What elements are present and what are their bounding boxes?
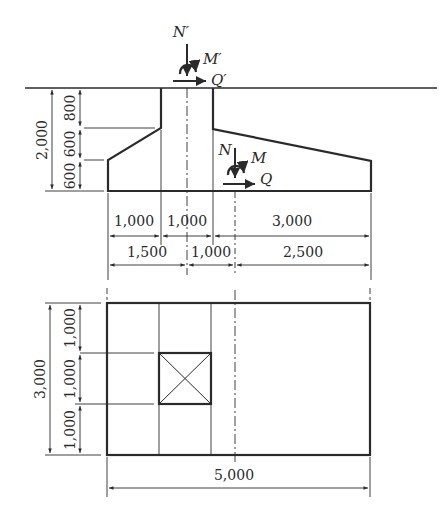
dim-middle-depth: 600 <box>62 131 78 158</box>
dim-plan-width: 5,000 <box>214 467 254 483</box>
label-shear-top: Q′ <box>211 71 227 89</box>
dim-row1-right: 3,000 <box>272 213 312 229</box>
column-top-loads: N′ M′ Q′ <box>172 23 228 89</box>
label-moment-base: M <box>250 149 267 167</box>
label-shear-base: Q <box>260 170 272 188</box>
footing-diagram: 2,000 800 600 600 1,000 1,000 3,000 1,50… <box>0 0 439 526</box>
dim-plan-total: 3,000 <box>32 359 48 399</box>
dim-row2-left: 1,500 <box>127 244 167 260</box>
footing-plan-outline <box>107 303 370 455</box>
dim-plan-top: 1,000 <box>62 308 78 348</box>
dim-row2-center: 1,000 <box>191 244 231 260</box>
dim-top-depth: 800 <box>62 95 78 122</box>
elevation-view: 2,000 800 600 600 1,000 1,000 3,000 1,50… <box>25 23 437 280</box>
label-axial-top: N′ <box>172 23 190 41</box>
label-axial-base: N <box>217 141 232 159</box>
dim-plan-bottom: 1,000 <box>62 410 78 450</box>
plan-view: 3,000 1,000 1,000 1,000 5,000 <box>32 288 370 497</box>
dim-row1-center: 1,000 <box>167 213 207 229</box>
footing-base-loads: N M Q <box>217 141 272 188</box>
dim-row1-left: 1,000 <box>114 213 154 229</box>
dim-total-depth: 2,000 <box>34 120 50 160</box>
dim-plan-middle: 1,000 <box>62 359 78 399</box>
dim-row2-right: 2,500 <box>283 244 323 260</box>
dim-bottom-depth: 600 <box>62 163 78 190</box>
label-moment-top: M′ <box>202 50 222 68</box>
footing-section-outline <box>108 88 371 191</box>
